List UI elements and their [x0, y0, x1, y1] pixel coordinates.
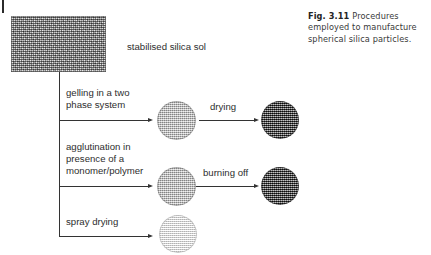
branch-2-arrow-head [148, 184, 153, 188]
branch-3-particle-sphere [159, 215, 197, 253]
branch-3-arrow-head [148, 234, 153, 238]
sol-drop-connector [59, 72, 60, 120]
branch-2-arrow-line [59, 186, 149, 187]
figure-number: Fig. 3.11 [308, 11, 349, 21]
silica-sol-label: stabilised silica sol [127, 41, 206, 53]
branch-3-arrow-line [59, 236, 149, 237]
branch-1-arrow-head [148, 118, 153, 122]
step-2-label: burning off [203, 167, 248, 179]
branch-2-label: agglutination in presence of a monomer/p… [66, 141, 143, 178]
branch-1-arrow-line [59, 120, 149, 121]
figure-caption: Fig. 3.11Procedures employed to manufact… [308, 11, 424, 45]
page-edge-mark [2, 0, 4, 13]
branch-1-label: gelling in a two phase system [66, 87, 129, 111]
step-2-arrow-head [254, 184, 259, 188]
step-1-arrow-line [199, 120, 255, 121]
branch-1-particle-sphere [157, 101, 196, 140]
branch-3-label: spray drying [66, 216, 118, 228]
branch-trunk-line [59, 119, 60, 237]
silica-sol-texture-block [11, 16, 106, 72]
branch-2-particle-sphere [157, 167, 196, 206]
step-1-label: drying [210, 101, 236, 113]
step-2-arrow-line [192, 186, 255, 187]
step-1-arrow-head [254, 118, 259, 122]
branch-1-dried-particle-sphere [261, 101, 299, 139]
branch-2-burned-particle-sphere [261, 167, 299, 205]
figure-page: Fig. 3.11Procedures employed to manufact… [0, 0, 431, 255]
